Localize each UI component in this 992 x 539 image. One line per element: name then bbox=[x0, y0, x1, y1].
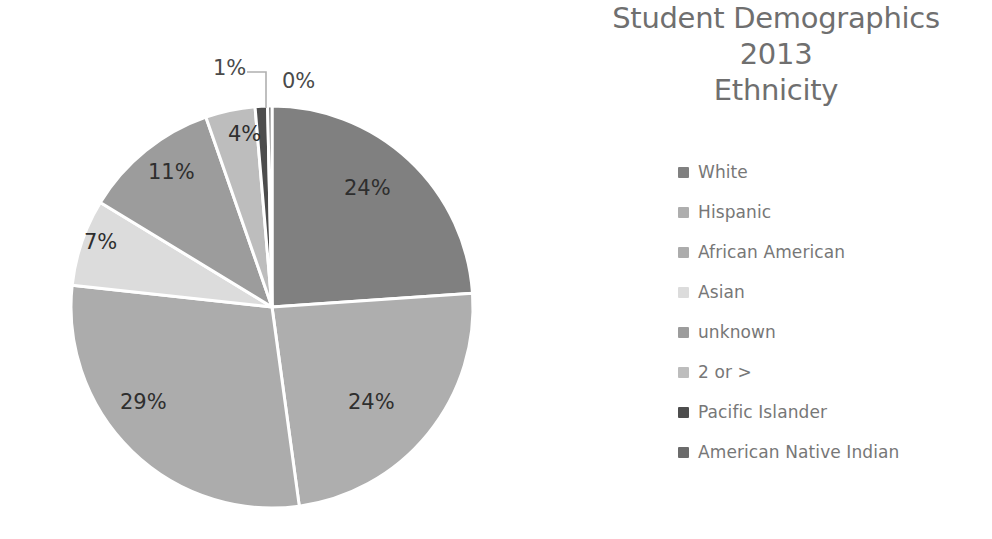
slice-label-white: 24% bbox=[344, 178, 391, 199]
pie-chart: 24% 24% 29% 7% 11% 4% 1% 0% Student Demo… bbox=[0, 0, 992, 539]
slice-label-african-american: 29% bbox=[120, 392, 167, 413]
pie-slice[interactable] bbox=[272, 106, 473, 307]
legend-item-label: Hispanic bbox=[698, 202, 771, 222]
leader-line-pacific-islander bbox=[247, 72, 266, 108]
legend-item-label: unknown bbox=[698, 322, 776, 342]
pie-slice[interactable] bbox=[71, 285, 299, 508]
legend-item[interactable]: Hispanic bbox=[678, 192, 992, 232]
legend-item-label: Pacific Islander bbox=[698, 402, 827, 422]
pie-plot-area: 24% 24% 29% 7% 11% 4% 1% 0% bbox=[0, 0, 560, 539]
legend-item[interactable]: Pacific Islander bbox=[678, 392, 992, 432]
chart-title-line-1: Student Demographics bbox=[560, 0, 992, 36]
legend-item[interactable]: White bbox=[678, 152, 992, 192]
chart-legend: WhiteHispanicAfrican AmericanAsianunknow… bbox=[678, 152, 992, 472]
legend-item[interactable]: African American bbox=[678, 232, 992, 272]
legend-item[interactable]: American Native Indian bbox=[678, 432, 992, 472]
slice-label-unknown: 11% bbox=[148, 162, 195, 183]
legend-color-swatch-icon bbox=[678, 247, 689, 258]
slice-label-asian: 7% bbox=[84, 232, 117, 253]
pie-graphic bbox=[0, 0, 560, 539]
legend-color-swatch-icon bbox=[678, 407, 689, 418]
pie-slices bbox=[71, 106, 473, 508]
legend-color-swatch-icon bbox=[678, 287, 689, 298]
legend-item-label: White bbox=[698, 162, 748, 182]
legend-item-label: American Native Indian bbox=[698, 442, 899, 462]
legend-item[interactable]: 2 or > bbox=[678, 352, 992, 392]
legend-color-swatch-icon bbox=[678, 367, 689, 378]
legend-color-swatch-icon bbox=[678, 167, 689, 178]
legend-color-swatch-icon bbox=[678, 447, 689, 458]
legend-color-swatch-icon bbox=[678, 207, 689, 218]
legend-color-swatch-icon bbox=[678, 327, 689, 338]
chart-side-panel: Student Demographics 2013 Ethnicity Whit… bbox=[560, 0, 992, 539]
chart-title-line-2: 2013 bbox=[560, 36, 992, 72]
legend-item-label: African American bbox=[698, 242, 845, 262]
slice-label-pacific-islander: 1% bbox=[213, 58, 246, 79]
slice-label-2-or-more: 4% bbox=[228, 124, 261, 145]
legend-item-label: Asian bbox=[698, 282, 745, 302]
slice-label-american-native-indian: 0% bbox=[282, 71, 315, 92]
legend-item[interactable]: unknown bbox=[678, 312, 992, 352]
legend-item-label: 2 or > bbox=[698, 362, 752, 382]
chart-title: Student Demographics 2013 Ethnicity bbox=[560, 0, 992, 108]
legend-item[interactable]: Asian bbox=[678, 272, 992, 312]
slice-label-hispanic: 24% bbox=[348, 392, 395, 413]
chart-title-line-3: Ethnicity bbox=[560, 72, 992, 108]
